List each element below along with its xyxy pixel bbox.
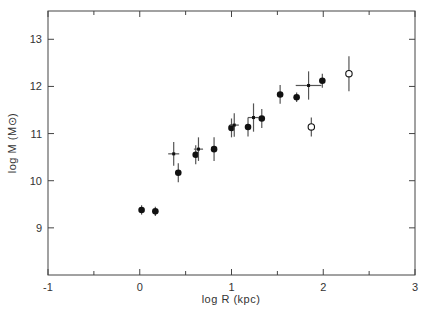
filled-circle-marker	[245, 124, 252, 131]
data-point-filled-circle	[245, 118, 252, 137]
y-tick-label: 11	[31, 128, 42, 140]
x-tick-label: 1	[228, 281, 234, 293]
data-point-filled-circle	[211, 137, 218, 161]
x-axis-label: log R (kpc)	[202, 293, 261, 305]
cross-marker	[233, 124, 236, 127]
x-tick-label: -1	[43, 281, 53, 293]
filled-circle-marker	[277, 91, 284, 98]
x-tick-label: 0	[137, 281, 143, 293]
scatter-chart: -10123910111213 log R (kpc) log M (M⊙)	[0, 0, 429, 319]
filled-circle-marker	[258, 115, 265, 122]
y-tick-label: 12	[30, 80, 42, 92]
data-point-filled-circle	[152, 207, 159, 216]
y-tick-label: 10	[30, 175, 42, 187]
open-circle-marker	[308, 124, 314, 130]
axis-ticks	[48, 11, 415, 275]
plot-frame	[48, 11, 415, 275]
cross-marker	[307, 84, 310, 87]
x-tick-label: 2	[320, 281, 326, 293]
open-circle-marker	[346, 71, 352, 77]
filled-circle-marker	[175, 169, 182, 176]
x-tick-label: 3	[412, 281, 418, 293]
data-points	[138, 56, 352, 216]
data-point-open-circle	[346, 56, 352, 91]
cross-marker	[197, 148, 200, 151]
data-point-filled-circle	[175, 163, 182, 182]
filled-circle-marker	[152, 208, 159, 215]
data-point-filled-circle	[277, 85, 284, 104]
data-point-open-circle	[308, 118, 314, 137]
data-point-filled-circle	[293, 93, 300, 102]
cross-marker	[252, 116, 255, 119]
y-tick-label: 13	[30, 33, 42, 45]
filled-circle-marker	[211, 146, 218, 153]
y-axis-label-text: log M (M⊙)	[6, 113, 18, 173]
data-point-filled-circle	[258, 109, 265, 128]
filled-circle-marker	[138, 207, 145, 214]
data-point-cross	[168, 142, 179, 166]
filled-circle-marker	[319, 77, 326, 84]
y-axis-label: log M (M⊙)	[6, 113, 18, 173]
data-point-filled-circle	[138, 205, 145, 214]
cross-marker	[172, 152, 175, 155]
data-point-cross	[296, 71, 322, 99]
tick-labels: -10123910111213	[30, 33, 418, 293]
filled-circle-marker	[293, 94, 300, 101]
y-tick-label: 9	[36, 222, 42, 234]
